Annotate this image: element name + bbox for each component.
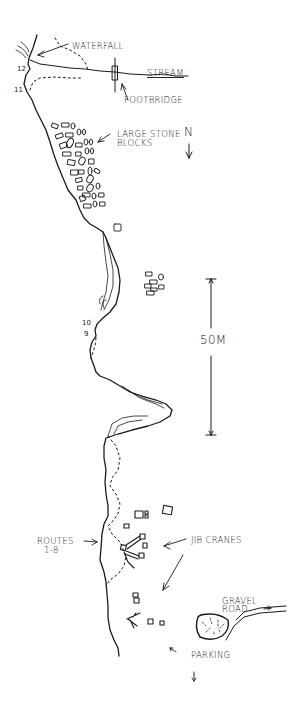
scale-label: 50M — [200, 336, 227, 345]
waterfall-label: WATERFALL — [72, 42, 124, 51]
waterfall-mark — [16, 50, 26, 58]
north-arrow-icon — [186, 144, 192, 158]
map-drawing — [0, 0, 304, 716]
parking-down-arrow — [192, 672, 196, 681]
parking-lot — [196, 614, 228, 639]
blocks-arrow — [98, 134, 110, 142]
stream-label: STREAM — [147, 69, 184, 78]
approach-path — [91, 338, 96, 358]
cranes-arrow — [164, 539, 186, 549]
route-number-12: 12 — [17, 65, 26, 73]
route-number-9: 9 — [84, 330, 88, 338]
stone-blocks — [51, 123, 164, 295]
parking-arrow — [170, 648, 176, 652]
gravel-road-label-2: ROAD — [222, 605, 248, 614]
scale-bar — [206, 279, 216, 435]
routes-arrow — [84, 539, 97, 545]
north-label: N — [184, 128, 193, 137]
parking-label: PARKING — [191, 651, 230, 660]
jib-cranes — [120, 505, 172, 628]
gully — [99, 232, 113, 310]
routes-label-2: 1-8 — [44, 546, 59, 555]
route-number-10: 10 — [82, 319, 91, 327]
large-stone-blocks-label-2: BLOCKS — [117, 139, 152, 148]
gravel-road — [226, 611, 286, 640]
waterfall-arrow — [38, 44, 68, 57]
jib-cranes-label: JIB CRANES — [191, 536, 242, 545]
footbridge-label: FOOTBRIDGE — [124, 96, 183, 105]
crag-map: WATERFALL STREAM FOOTBRIDGE LARGE STONE … — [0, 0, 304, 716]
route-number-11: 11 — [14, 86, 23, 94]
cranes-arrow-2 — [163, 555, 183, 590]
